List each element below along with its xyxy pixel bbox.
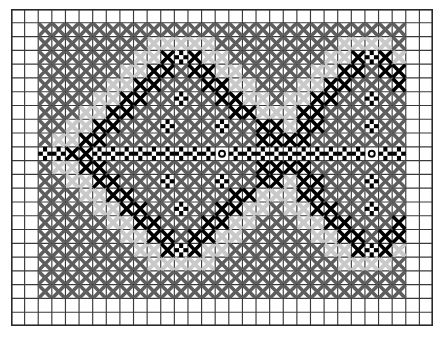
cross-stitch-chart: Cross-Stitch Pattern Chart Monochrome ch… bbox=[0, 0, 448, 341]
pattern-grid-frame bbox=[11, 9, 433, 326]
grid-lines bbox=[11, 9, 433, 326]
